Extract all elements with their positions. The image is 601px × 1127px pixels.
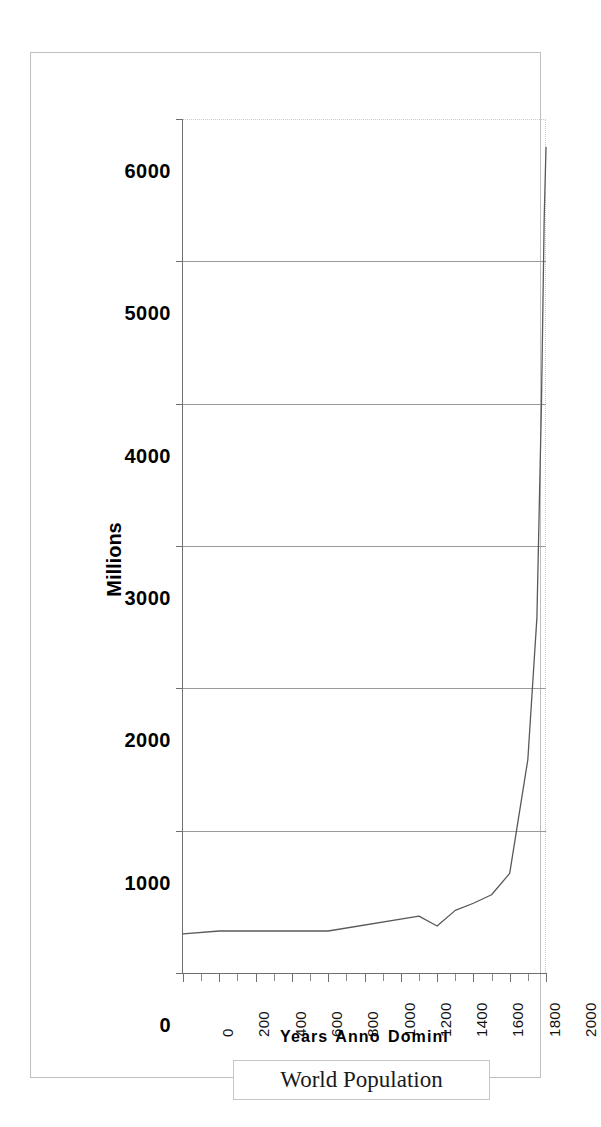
chart-outer-frame: 0100020003000400050006000 02004006008001… [30, 52, 541, 1078]
legend-label: World Population [280, 1067, 442, 1093]
data-series-layer [183, 119, 546, 973]
world-population-line [183, 147, 546, 933]
y-axis-title: Millions [103, 522, 126, 596]
x-tick-label: 1800 [546, 1002, 563, 1037]
x-axis-title: Years Anno Domini [183, 1028, 546, 1046]
x-tick-label: 2000 [582, 1002, 599, 1037]
legend-box: World Population [233, 1060, 490, 1100]
